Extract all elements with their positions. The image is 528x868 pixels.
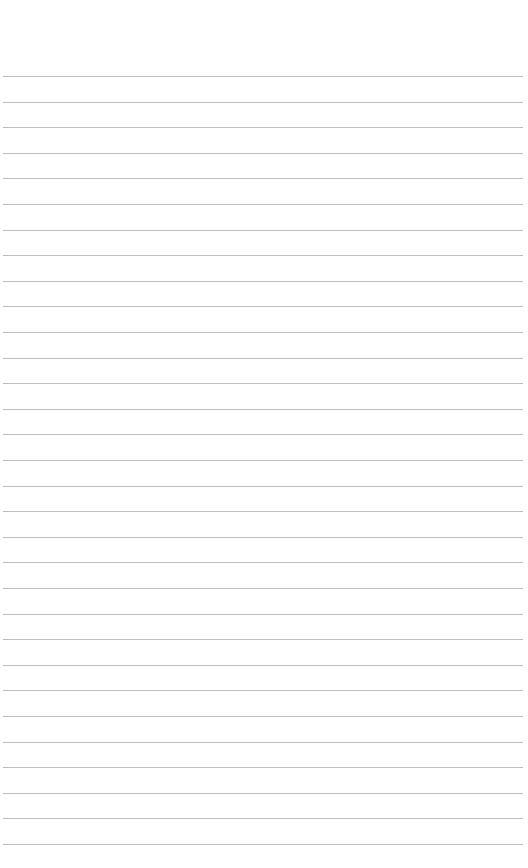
ruled-line bbox=[3, 844, 523, 845]
ruled-line bbox=[3, 434, 523, 435]
ruled-line bbox=[3, 127, 523, 128]
ruled-line bbox=[3, 614, 523, 615]
ruled-line bbox=[3, 153, 523, 154]
ruled-line bbox=[3, 76, 523, 77]
ruled-line bbox=[3, 409, 523, 410]
ruled-line bbox=[3, 537, 523, 538]
ruled-line bbox=[3, 742, 523, 743]
ruled-line bbox=[3, 639, 523, 640]
ruled-paper-sheet bbox=[0, 0, 528, 868]
ruled-line bbox=[3, 486, 523, 487]
ruled-line bbox=[3, 690, 523, 691]
ruled-line bbox=[3, 767, 523, 768]
ruled-line bbox=[3, 255, 523, 256]
ruled-line bbox=[3, 562, 523, 563]
ruled-line bbox=[3, 588, 523, 589]
ruled-line bbox=[3, 665, 523, 666]
ruled-line bbox=[3, 511, 523, 512]
ruled-line bbox=[3, 818, 523, 819]
ruled-line bbox=[3, 306, 523, 307]
ruled-line bbox=[3, 230, 523, 231]
ruled-line bbox=[3, 332, 523, 333]
ruled-line bbox=[3, 383, 523, 384]
ruled-line bbox=[3, 178, 523, 179]
ruled-line bbox=[3, 793, 523, 794]
ruled-line bbox=[3, 716, 523, 717]
ruled-line bbox=[3, 460, 523, 461]
ruled-line bbox=[3, 102, 523, 103]
ruled-line bbox=[3, 358, 523, 359]
ruled-line bbox=[3, 204, 523, 205]
ruled-line bbox=[3, 281, 523, 282]
